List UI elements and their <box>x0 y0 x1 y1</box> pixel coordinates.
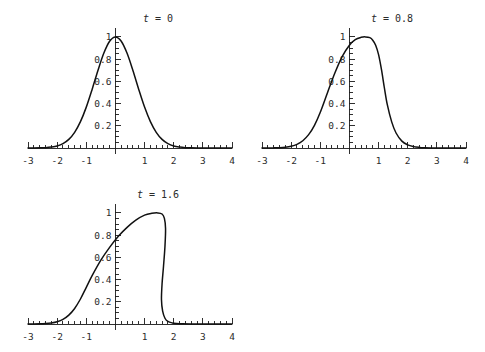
x-tick-label: 3 <box>434 155 440 166</box>
y-tick-label: 0.2 <box>94 120 111 131</box>
axes-t08: -3-2-112340.20.40.60.81 <box>256 28 469 166</box>
data-curve-t0 <box>28 37 232 148</box>
plot-svg-t16: t = 1.6 -3-2-112340.20.40.60.81 <box>18 182 242 352</box>
plot-svg-t08: t = 0.8 -3-2-112340.20.40.60.81 <box>252 6 476 176</box>
y-tick-label: 1 <box>106 207 112 218</box>
x-tick-label: -3 <box>22 155 33 166</box>
x-tick-label: 4 <box>229 331 235 342</box>
x-tick-label: 3 <box>200 331 206 342</box>
x-tick-label: -2 <box>285 155 296 166</box>
x-tick-label: 1 <box>142 155 148 166</box>
x-tick-label: 2 <box>171 155 177 166</box>
plot-svg-t0: t = 0 -3-2-112340.20.40.60.81 <box>18 6 242 176</box>
y-tick-label: 0.4 <box>94 274 111 285</box>
y-tick-label: 0.2 <box>94 296 111 307</box>
y-tick-label: 0.2 <box>328 120 345 131</box>
x-tick-label: -1 <box>81 155 93 166</box>
data-curve-t08 <box>262 37 466 148</box>
y-tick-label: 1 <box>340 31 346 42</box>
x-tick-label: 1 <box>142 331 148 342</box>
x-tick-label: 1 <box>376 155 382 166</box>
plot-panel-t16: t = 1.6 -3-2-112340.20.40.60.81 <box>18 182 242 352</box>
x-tick-label: 2 <box>171 331 177 342</box>
y-tick-label: 0.4 <box>328 98 345 109</box>
x-tick-label: -2 <box>51 155 62 166</box>
plot-title-t08: t = 0.8 <box>371 13 413 24</box>
x-tick-label: -2 <box>51 331 62 342</box>
x-tick-label: 4 <box>229 155 235 166</box>
y-tick-label: 0.6 <box>94 76 111 87</box>
plot-title-t0: t = 0 <box>143 13 173 24</box>
axes-t16: -3-2-112340.20.40.60.81 <box>22 204 235 342</box>
x-tick-label: 3 <box>200 155 206 166</box>
plot-title-t16: t = 1.6 <box>137 189 179 200</box>
axes-t0: -3-2-112340.20.40.60.81 <box>22 28 235 166</box>
y-tick-label: 0.4 <box>94 98 111 109</box>
x-tick-label: 2 <box>405 155 411 166</box>
plot-panel-t0: t = 0 -3-2-112340.20.40.60.81 <box>18 6 242 176</box>
x-tick-label: 4 <box>463 155 469 166</box>
y-tick-label: 0.8 <box>94 230 111 241</box>
data-curve-t16 <box>28 213 232 324</box>
x-tick-label: -1 <box>81 331 93 342</box>
x-tick-label: -1 <box>315 155 327 166</box>
x-tick-label: -3 <box>22 331 33 342</box>
plot-panel-t08: t = 0.8 -3-2-112340.20.40.60.81 <box>252 6 476 176</box>
multi-panel-figure: t = 0 -3-2-112340.20.40.60.81 t = 0.8 -3… <box>0 0 485 352</box>
x-tick-label: -3 <box>256 155 267 166</box>
